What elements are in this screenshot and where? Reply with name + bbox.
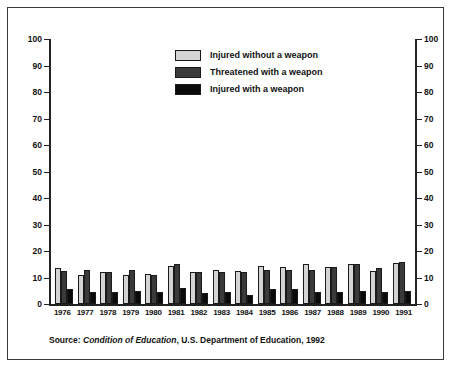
y-tick-mark	[417, 278, 422, 279]
x-tick-label: 1982	[188, 308, 211, 317]
x-axis-tick-labels: 1976197719781979198019811982198319841985…	[49, 308, 417, 317]
bar-group	[346, 39, 369, 304]
bar	[292, 289, 298, 304]
y-tick-mark	[417, 304, 422, 305]
y-tick-label-right: 100	[424, 35, 438, 44]
legend-label: Threatened with a weapon	[210, 67, 323, 77]
y-tick-mark	[417, 119, 422, 120]
legend-label: Injured with a weapon	[210, 84, 304, 94]
y-axis-right	[415, 39, 417, 306]
bar	[270, 289, 276, 304]
x-tick-label: 1987	[301, 308, 324, 317]
bar-group	[391, 39, 414, 304]
bar	[202, 293, 208, 304]
y-tick-mark	[417, 225, 422, 226]
bar	[225, 292, 231, 304]
bar	[112, 292, 118, 304]
x-tick-label: 1985	[256, 308, 279, 317]
y-tick-mark	[417, 251, 422, 252]
y-tick-label-left: 30	[33, 221, 42, 230]
x-tick-label: 1979	[119, 308, 142, 317]
x-tick-label: 1976	[51, 308, 74, 317]
bar-group	[98, 39, 121, 304]
y-tick-mark	[44, 92, 49, 93]
source-prefix: Source:	[49, 335, 83, 345]
legend-swatch	[175, 50, 201, 61]
y-tick-mark	[44, 304, 49, 305]
bar	[315, 292, 321, 304]
x-tick-label: 1980	[142, 308, 165, 317]
x-tick-label: 1984	[233, 308, 256, 317]
bar	[337, 292, 343, 304]
y-tick-label-left: 20	[33, 247, 42, 256]
bar	[180, 288, 186, 304]
y-tick-label-right: 40	[424, 194, 433, 203]
chart-figure: 0010102020303040405050606070708080909010…	[0, 0, 451, 367]
x-tick-label: 1986	[279, 308, 302, 317]
y-tick-mark	[44, 278, 49, 279]
chart-legend: Injured without a weaponThreatened with …	[175, 48, 323, 99]
y-tick-label-right: 10	[424, 274, 433, 283]
y-tick-mark	[417, 145, 422, 146]
y-tick-mark	[44, 198, 49, 199]
y-tick-mark	[44, 145, 49, 146]
y-tick-label-right: 30	[424, 221, 433, 230]
legend-swatch	[175, 67, 201, 78]
y-tick-label-right: 50	[424, 168, 433, 177]
bar	[67, 289, 73, 304]
bar-group	[368, 39, 391, 304]
x-tick-label: 1989	[347, 308, 370, 317]
y-tick-label-left: 90	[33, 62, 42, 71]
source-suffix: , U.S. Department of Education, 1992	[177, 335, 325, 345]
x-tick-label: 1990	[370, 308, 393, 317]
x-axis	[49, 304, 417, 306]
y-tick-mark	[417, 198, 422, 199]
y-tick-mark	[44, 39, 49, 40]
y-tick-mark	[44, 251, 49, 252]
y-tick-mark	[417, 92, 422, 93]
bar-group	[323, 39, 346, 304]
y-tick-mark	[44, 119, 49, 120]
y-tick-mark	[417, 172, 422, 173]
legend-item: Threatened with a weapon	[175, 65, 323, 79]
y-tick-label-right: 0	[424, 300, 429, 309]
bar	[382, 292, 388, 304]
bar-group	[76, 39, 99, 304]
legend-label: Injured without a weapon	[210, 50, 318, 60]
chart-frame: 0010102020303040405050606070708080909010…	[7, 7, 444, 360]
y-tick-label-left: 70	[33, 115, 42, 124]
y-tick-label-right: 90	[424, 62, 433, 71]
y-tick-mark	[417, 66, 422, 67]
y-tick-label-right: 70	[424, 115, 433, 124]
bar	[157, 292, 163, 304]
x-tick-label: 1988	[324, 308, 347, 317]
x-tick-label: 1983	[210, 308, 233, 317]
y-tick-label-left: 60	[33, 141, 42, 150]
y-tick-label-left: 80	[33, 88, 42, 97]
x-tick-label: 1977	[74, 308, 97, 317]
legend-item: Injured without a weapon	[175, 48, 323, 62]
bar-group	[143, 39, 166, 304]
y-tick-label-left: 50	[33, 168, 42, 177]
bar	[405, 291, 411, 304]
source-title: Condition of Education	[83, 335, 176, 345]
bar-group	[121, 39, 144, 304]
y-tick-label-left: 100	[28, 35, 42, 44]
bar	[90, 292, 96, 304]
bar	[247, 295, 253, 304]
y-tick-label-right: 60	[424, 141, 433, 150]
y-tick-mark	[44, 66, 49, 67]
y-tick-label-left: 40	[33, 194, 42, 203]
y-tick-mark	[44, 225, 49, 226]
x-tick-label: 1978	[97, 308, 120, 317]
source-note: Source: Condition of Education, U.S. Dep…	[49, 335, 325, 345]
x-tick-label: 1981	[165, 308, 188, 317]
legend-swatch	[175, 84, 201, 95]
y-tick-mark	[44, 172, 49, 173]
y-tick-mark	[417, 39, 422, 40]
y-tick-label-right: 80	[424, 88, 433, 97]
x-tick-label: 1991	[392, 308, 415, 317]
bar	[360, 291, 366, 304]
bar-group	[53, 39, 76, 304]
y-tick-label-right: 20	[424, 247, 433, 256]
